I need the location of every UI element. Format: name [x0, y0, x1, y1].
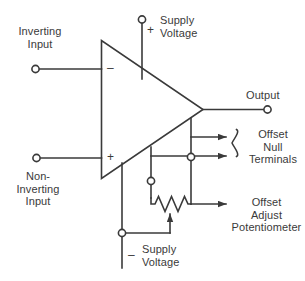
negative-supply-label: Supply Voltage — [142, 243, 232, 268]
offset-adjust-potentiometer-label: Offset Adjust Potentiometer — [228, 196, 305, 234]
inverting-input-label: Inverting Input — [4, 25, 76, 50]
offset-null-terminal-2[interactable] — [147, 177, 154, 184]
negative-supply-sign: – — [128, 249, 135, 261]
non-inverting-terminal-sign: + — [107, 151, 114, 163]
positive-supply-sign: + — [147, 24, 154, 36]
output-terminal[interactable] — [264, 106, 271, 113]
op-amp-schematic-diagram: – + + – Inverting Input Non- Inverting I… — [0, 0, 305, 281]
offset-null-terminals-label: Offset Null Terminals — [241, 128, 305, 166]
non-inverting-input-terminal[interactable] — [33, 154, 40, 161]
output-label: Output — [246, 89, 304, 102]
offset-null-brace — [232, 130, 238, 157]
positive-supply-label: Supply Voltage — [160, 14, 250, 39]
non-inverting-input-label: Non- Inverting Input — [0, 170, 76, 208]
inverting-input-terminal[interactable] — [32, 65, 39, 72]
potentiometer-resistor — [151, 197, 191, 212]
inverting-terminal-sign: – — [107, 62, 114, 74]
offset-null-terminal-1[interactable] — [187, 153, 194, 160]
positive-supply-terminal[interactable] — [138, 16, 145, 23]
negative-supply-terminal[interactable] — [118, 229, 125, 236]
